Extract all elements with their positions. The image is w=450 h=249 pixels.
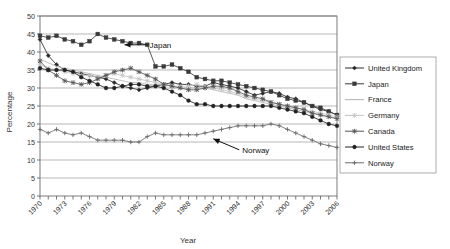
y-axis-ticks: 05101520253035404550 — [27, 12, 40, 201]
marker-asterisk — [71, 80, 76, 85]
marker-circle — [55, 68, 59, 72]
y-tick-label: 25 — [27, 102, 35, 111]
marker-asterisk — [178, 86, 183, 91]
marker-plus — [54, 127, 58, 131]
marker-square — [277, 93, 281, 97]
marker-asterisk — [137, 69, 142, 74]
marker-square — [154, 65, 158, 69]
marker-circle — [269, 104, 273, 108]
marker-asterisk — [104, 73, 109, 78]
marker-asterisk — [87, 73, 92, 78]
marker-square — [244, 84, 248, 88]
line-chart: 05101520253035404550 1970197319761979198… — [0, 0, 450, 249]
marker-plus — [302, 134, 306, 138]
marker-plus — [63, 131, 67, 135]
marker-plus — [195, 133, 199, 137]
marker-square — [302, 101, 306, 105]
marker-square — [112, 38, 116, 42]
marker-circle — [187, 99, 191, 103]
series-japan — [38, 32, 339, 117]
marker-square — [170, 63, 174, 67]
marker-asterisk — [79, 82, 84, 87]
marker-plus — [170, 133, 174, 137]
marker-circle — [244, 104, 248, 108]
marker-asterisk — [120, 68, 125, 73]
x-tick-label: 1988 — [175, 199, 193, 217]
x-tick-label: 1979 — [100, 199, 118, 217]
marker-plus — [335, 145, 339, 149]
y-tick-label: 5 — [31, 174, 35, 183]
series-line — [40, 39, 337, 115]
x-axis-ticks: 1970197319761979198219851988199119941997… — [26, 196, 341, 217]
marker-circle — [195, 102, 199, 106]
legend-label: United Kingdom — [368, 64, 422, 73]
marker-circle — [253, 104, 257, 108]
y-tick-label: 40 — [27, 48, 35, 57]
marker-square — [286, 97, 290, 101]
marker-plus — [129, 140, 133, 144]
marker-square — [178, 66, 182, 70]
japan-annotation-label: Japan — [150, 41, 172, 50]
marker-square — [228, 81, 232, 85]
marker-asterisk — [318, 113, 323, 118]
marker-square — [96, 32, 100, 36]
marker-circle — [88, 79, 92, 83]
marker-asterisk — [120, 73, 125, 78]
marker-asterisk — [62, 78, 67, 83]
marker-plus — [162, 133, 166, 137]
marker-circle — [178, 93, 182, 97]
x-tick-label: 1997 — [249, 199, 267, 217]
marker-square — [294, 99, 298, 103]
x-tick-label: 2003 — [298, 199, 316, 217]
marker-asterisk — [153, 77, 158, 82]
marker-square — [261, 88, 265, 92]
legend-label: France — [368, 95, 392, 104]
y-tick-label: 20 — [27, 120, 35, 129]
marker-asterisk — [54, 73, 59, 78]
marker-asterisk — [236, 89, 241, 94]
marker-asterisk — [170, 84, 175, 89]
marker-square — [71, 39, 75, 43]
marker-asterisk — [128, 66, 133, 71]
marker-plus — [186, 133, 190, 137]
marker-asterisk — [194, 82, 199, 87]
legend-label: Canada — [368, 127, 395, 136]
marker-circle — [162, 86, 166, 90]
marker-plus — [211, 129, 215, 133]
marker-square — [162, 65, 166, 69]
marker-circle — [211, 104, 215, 108]
y-tick-label: 30 — [27, 84, 35, 93]
marker-asterisk — [145, 73, 150, 78]
marker-circle — [327, 122, 331, 126]
marker-plus — [153, 131, 157, 135]
marker-square — [46, 36, 50, 40]
marker-square — [88, 39, 92, 43]
marker-plus — [137, 140, 141, 144]
x-tick-label: 1970 — [26, 199, 44, 217]
marker-square — [38, 34, 42, 38]
marker-circle — [319, 119, 323, 123]
marker-circle — [104, 86, 108, 90]
marker-plus — [46, 131, 50, 135]
marker-circle — [203, 102, 207, 106]
marker-circle — [145, 84, 149, 88]
marker-diamond — [38, 37, 42, 41]
marker-asterisk — [112, 69, 117, 74]
x-tick-label: 1973 — [51, 199, 69, 217]
x-tick-label: 1976 — [76, 199, 94, 217]
marker-circle — [310, 115, 314, 119]
marker-square — [195, 75, 199, 79]
marker-asterisk — [95, 77, 100, 82]
marker-square — [353, 82, 357, 86]
marker-square — [220, 79, 224, 83]
marker-plus — [38, 127, 42, 131]
marker-plus — [87, 134, 91, 138]
marker-circle — [154, 84, 158, 88]
x-tick-label: 1994 — [224, 199, 242, 217]
x-tick-label: 2006 — [323, 199, 341, 217]
marker-circle — [294, 110, 298, 114]
series-norway — [38, 122, 339, 150]
y-tick-label: 35 — [27, 66, 35, 75]
marker-circle — [228, 104, 232, 108]
marker-circle — [121, 84, 125, 88]
